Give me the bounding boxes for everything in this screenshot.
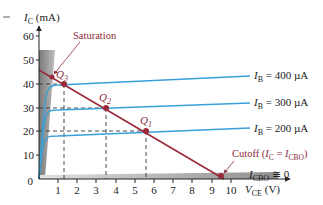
cutoff-point: [218, 173, 224, 179]
transistor-characteristic-chart: 10 20 30 40 50 60 0 1 2 3 4 5 6 7 8 9 10…: [0, 0, 323, 205]
x-tick-10: 10: [226, 184, 238, 196]
y-tick-50: 50: [23, 54, 35, 66]
x-tick-7: 7: [170, 184, 176, 196]
load-line: [39, 70, 224, 179]
x-tick-labels: 1 2 3 4 5 6 7 8 9 10: [55, 184, 237, 196]
x-tick-4: 4: [113, 184, 119, 196]
x-tick-9: 9: [209, 184, 215, 196]
cutoff-arrow: [224, 161, 234, 173]
ib-curves: [39, 76, 250, 179]
y-tick-10: 10: [23, 149, 35, 161]
cutoff-annotation: Cutoff (IC = ICBO): [232, 148, 308, 162]
curve-ib-200: [39, 128, 250, 179]
y-tick-60: 60: [23, 30, 35, 42]
x-tick-1: 1: [55, 184, 61, 196]
label-ib-200: IB = 200 µA: [253, 122, 308, 137]
y-tick-20: 20: [23, 125, 35, 137]
saturation-annotation: Saturation: [73, 30, 117, 41]
x-tick-8: 8: [189, 184, 195, 196]
x-tick-3: 3: [93, 184, 99, 196]
x-tick-5: 5: [132, 184, 138, 196]
saturation-arrow: [54, 42, 80, 74]
x-tick-2: 2: [74, 184, 80, 196]
x-ticks: [58, 179, 231, 183]
label-ib-400: IB = 400 µA: [253, 69, 308, 84]
y-axis-label: IC (mA): [23, 11, 60, 26]
q-point-guides: [39, 84, 146, 179]
q1-label: Q1: [140, 114, 152, 129]
origin-label: 0: [28, 175, 34, 187]
icbo-label: ICBO ≅ 0: [248, 168, 290, 183]
q2-label: Q2: [99, 91, 111, 106]
label-ib-300: IB = 300 µA: [253, 96, 308, 111]
saturation-point: [50, 75, 55, 80]
cutoff-region: [39, 172, 278, 179]
y-tick-30: 30: [23, 102, 35, 114]
x-tick-6: 6: [151, 184, 157, 196]
x-axis-label: VCE (V): [245, 183, 280, 198]
y-tick-40: 40: [23, 78, 35, 90]
y-tick-labels: 10 20 30 40 50 60: [23, 30, 35, 161]
curve-ib-400: [39, 76, 250, 179]
